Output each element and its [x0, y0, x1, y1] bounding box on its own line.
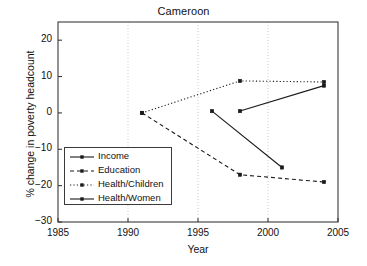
legend-marker: [80, 197, 83, 200]
legend-label: Education: [98, 164, 140, 175]
legend-item[interactable]: Health/Children: [65, 176, 171, 190]
legend-marker: [80, 183, 83, 186]
series-line: [142, 81, 324, 113]
data-point-marker: [322, 84, 325, 87]
legend-line-sample: [69, 149, 95, 161]
data-point-marker: [322, 180, 325, 183]
legend-marker: [80, 169, 83, 172]
legend-line-sample: [69, 177, 95, 189]
series-health-children: [140, 79, 325, 114]
series-line: [240, 86, 324, 111]
chart-figure: Cameroon % change in poverty headcount Y…: [0, 0, 367, 266]
data-point-marker: [238, 109, 241, 112]
legend-marker: [80, 155, 83, 158]
legend-item[interactable]: Health/Women: [65, 190, 171, 204]
data-point-marker: [322, 80, 325, 83]
legend-item[interactable]: Income: [65, 148, 171, 162]
data-point-marker: [210, 109, 213, 112]
data-point-marker: [238, 173, 241, 176]
legend-line-sample: [69, 163, 95, 175]
data-point-marker: [140, 111, 143, 114]
legend-label: Health/Women: [98, 192, 161, 203]
series-health-women: [210, 109, 283, 169]
series-income: [238, 84, 325, 113]
legend-label: Income: [98, 150, 129, 161]
series-line: [212, 111, 282, 167]
legend-label: Health/Children: [98, 178, 163, 189]
chart-legend: IncomeEducationHealth/ChildrenHealth/Wom…: [64, 147, 172, 205]
data-point-marker: [238, 79, 241, 82]
legend-line-sample: [69, 191, 95, 203]
plot-canvas: [0, 0, 367, 266]
data-point-marker: [280, 166, 283, 169]
legend-item[interactable]: Education: [65, 162, 171, 176]
